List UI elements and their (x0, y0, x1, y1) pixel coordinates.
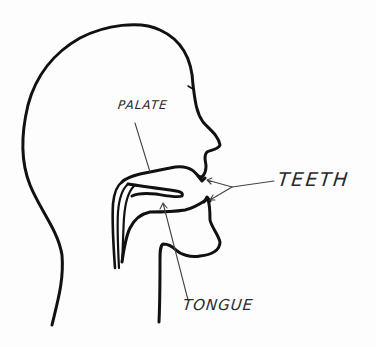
tongue-label: TONGUE (182, 296, 254, 314)
upper-lip (122, 167, 202, 182)
teeth-pointer-lower (210, 187, 232, 200)
tongue-tip (128, 184, 182, 197)
teeth-pointer-stem (232, 181, 274, 187)
palate-pointer (135, 123, 150, 172)
head-outline (23, 25, 220, 325)
tongue-pointer (160, 203, 188, 300)
teeth-label: TEETH (277, 168, 351, 190)
teeth-pointer-upper (207, 178, 232, 187)
diagram-canvas: PALATE TEETH TONGUE (0, 0, 376, 347)
palate-label: PALATE (117, 98, 168, 112)
tongue-shape (122, 200, 206, 262)
